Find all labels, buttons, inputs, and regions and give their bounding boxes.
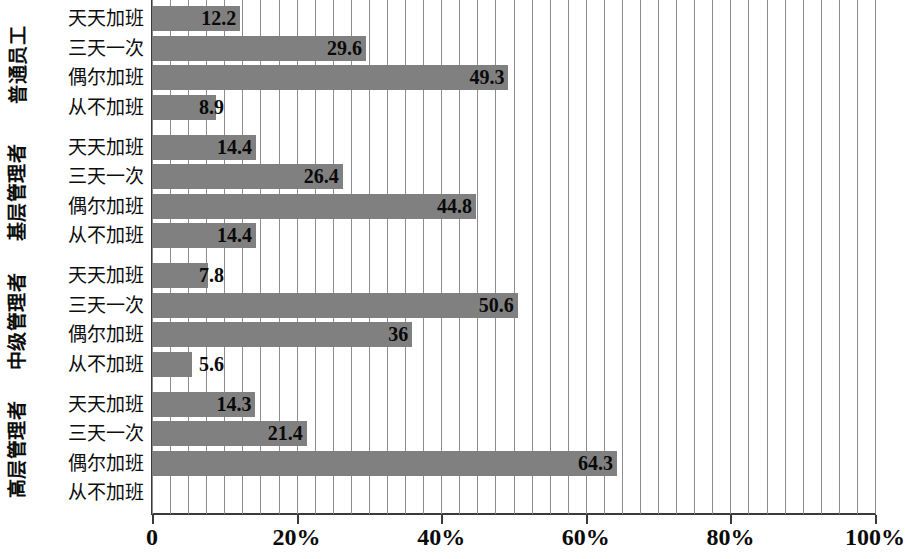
gridline — [857, 0, 858, 514]
category-label: 三天一次 — [68, 296, 144, 315]
gridline — [694, 0, 695, 514]
gridline — [748, 0, 749, 514]
gridline — [640, 0, 641, 514]
category-label: 三天一次 — [68, 39, 144, 58]
bar-value-label: 49.3 — [434, 65, 504, 90]
gridline — [532, 0, 533, 514]
bar-value-label: 14.4 — [182, 135, 252, 160]
gridline — [875, 0, 876, 514]
category-label: 偶尔加班 — [68, 197, 144, 216]
gridline — [767, 0, 768, 514]
group-label-text: 基层管理者 — [3, 144, 30, 242]
gridline — [658, 0, 659, 514]
category-label: 三天一次 — [68, 424, 144, 443]
category-label: 天天加班 — [68, 395, 144, 414]
x-axis-tick-labels: 020%40%60%80%100% — [0, 524, 905, 559]
bar-value-label: 44.8 — [402, 194, 472, 219]
bar-value-label: 12.2 — [166, 6, 236, 31]
bar-value-label: 5.6 — [154, 352, 224, 377]
x-tick — [875, 515, 877, 524]
gridline — [730, 0, 731, 514]
group-label-text: 高层管理者 — [3, 401, 30, 499]
category-label: 从不加班 — [68, 98, 144, 117]
x-tick — [730, 515, 732, 524]
x-tick-label: 0 — [146, 524, 158, 551]
horizontal-bar-chart: 普通员工基层管理者中级管理者高层管理者 天天加班三天一次偶尔加班从不加班天天加班… — [0, 0, 905, 559]
gridline — [586, 0, 587, 514]
category-label: 偶尔加班 — [68, 454, 144, 473]
group-label-axis: 普通员工基层管理者中级管理者高层管理者 — [0, 0, 32, 514]
category-label-axis: 天天加班三天一次偶尔加班从不加班天天加班三天一次偶尔加班从不加班天天加班三天一次… — [36, 0, 148, 514]
group-label-3: 中级管理者 — [0, 257, 32, 386]
gridline — [514, 0, 515, 514]
x-tick — [152, 515, 154, 524]
gridline — [550, 0, 551, 514]
category-label: 天天加班 — [68, 9, 144, 28]
category-label: 从不加班 — [68, 483, 144, 502]
category-label: 偶尔加班 — [68, 68, 144, 87]
bar-value-label: 50.6 — [444, 293, 514, 318]
x-tick — [441, 515, 443, 524]
gridline — [568, 0, 569, 514]
group-label-text: 中级管理者 — [3, 273, 30, 371]
category-label: 天天加班 — [68, 266, 144, 285]
x-tick-label: 20% — [273, 524, 321, 551]
x-tick-label: 100% — [845, 524, 905, 551]
bar-value-label: 14.3 — [181, 392, 251, 417]
gridline — [712, 0, 713, 514]
category-label: 从不加班 — [68, 226, 144, 245]
bar-value-label: 7.8 — [154, 263, 224, 288]
x-tick — [297, 515, 299, 524]
group-label-text: 普通员工 — [3, 25, 30, 103]
gridline — [803, 0, 804, 514]
gridline — [785, 0, 786, 514]
gridline — [676, 0, 677, 514]
category-label: 三天一次 — [68, 167, 144, 186]
x-tick-label: 80% — [706, 524, 754, 551]
category-label: 天天加班 — [68, 138, 144, 157]
x-tick-label: 40% — [417, 524, 465, 551]
group-label-2: 基层管理者 — [0, 129, 32, 258]
bar-value-label: 29.6 — [292, 36, 362, 61]
category-label: 从不加班 — [68, 355, 144, 374]
bar-value-label: 26.4 — [269, 164, 339, 189]
bar-value-label: 8.9 — [154, 95, 224, 120]
plot-area: 12.229.649.38.914.426.444.814.47.850.636… — [152, 0, 875, 514]
bar-value-label: 14.4 — [182, 223, 252, 248]
bar-value-label: 64.3 — [543, 451, 613, 476]
x-tick — [586, 515, 588, 524]
x-tick-label: 60% — [562, 524, 610, 551]
bar-value-label: 36 — [338, 322, 408, 347]
gridline — [604, 0, 605, 514]
gridline — [839, 0, 840, 514]
category-label: 偶尔加班 — [68, 325, 144, 344]
gridline — [622, 0, 623, 514]
group-label-1: 普通员工 — [0, 0, 32, 129]
gridline — [821, 0, 822, 514]
group-label-4: 高层管理者 — [0, 386, 32, 515]
bar-value-label: 21.4 — [233, 421, 303, 446]
